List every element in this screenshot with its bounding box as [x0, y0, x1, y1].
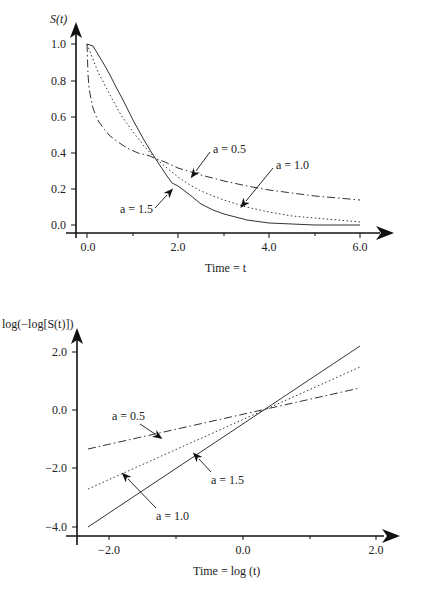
svg-text:a = 1.0: a = 1.0	[156, 509, 189, 523]
annotation-a-0.5: a = 0.5	[196, 142, 246, 171]
y-tick-label: 0.4	[51, 146, 66, 160]
x-tick-label: 4.0	[262, 240, 277, 254]
annotation-a-1.5: a = 1.5	[120, 195, 167, 216]
survival-chart: 0.0 0.2 0.4 0.6 0.8 1.0 S(t) 0.0 2.0 4.0	[50, 12, 394, 275]
y-tick-label: 0.8	[51, 74, 66, 88]
x-tick-label: 6.0	[353, 240, 368, 254]
bottom-x-axis: −2.0 0.0 2.0 Time = log (t)	[66, 529, 400, 578]
y-tick-label: 0.0	[51, 218, 66, 232]
series-a-1.0	[88, 367, 360, 489]
svg-text:a = 1.5: a = 1.5	[120, 202, 153, 216]
series-a-1.0	[87, 44, 360, 222]
y-tick-label: 1.0	[51, 37, 66, 51]
svg-text:a = 1.5: a = 1.5	[211, 473, 244, 487]
y-tick-label: 2.0	[52, 345, 67, 359]
x-tick-label: 2.0	[369, 543, 384, 557]
y-axis-title: S(t)	[50, 12, 67, 26]
svg-text:a = 0.5: a = 0.5	[112, 409, 145, 423]
top-y-axis: 0.0 0.2 0.4 0.6 0.8 1.0 S(t)	[50, 12, 82, 238]
x-tick-label: 0.0	[81, 240, 96, 254]
y-tick-label: −2.0	[45, 461, 67, 475]
x-tick-label: −2.0	[98, 543, 120, 557]
svg-text:a = 0.5: a = 0.5	[213, 142, 246, 156]
top-x-axis: 0.0 2.0 4.0 6.0 Time = t	[66, 226, 394, 275]
series-a-1.5	[87, 44, 360, 225]
annotation-a-0.5: a = 0.5	[112, 409, 155, 434]
svg-text:a = 1.0: a = 1.0	[276, 158, 309, 172]
series-a-1.5	[88, 346, 360, 527]
y-axis-title: log(−log[S(t)])	[2, 317, 73, 331]
series-a-0.5	[87, 44, 360, 200]
x-axis-arrow-icon	[382, 529, 400, 543]
annotation-a-1.0: a = 1.0	[128, 479, 189, 523]
y-tick-label: 0.6	[51, 110, 66, 124]
bottom-y-axis: 2.0 0.0 −2.0 −4.0 log(−log[S(t)])	[2, 317, 83, 545]
x-tick-label: 2.0	[171, 240, 186, 254]
annotation-a-1.5: a = 1.5	[199, 459, 244, 487]
log-log-chart: 2.0 0.0 −2.0 −4.0 log(−log[S(t)]) −2.0 0…	[2, 317, 400, 578]
x-tick-label: 0.0	[236, 543, 251, 557]
annotation-a-1.0: a = 1.0	[246, 158, 309, 201]
y-tick-label: 0.2	[51, 182, 66, 196]
y-tick-label: −4.0	[45, 520, 67, 534]
figure: 0.0 0.2 0.4 0.6 0.8 1.0 S(t) 0.0 2.0 4.0	[0, 0, 421, 596]
x-axis-title: Time = log (t)	[193, 564, 260, 578]
x-axis-title: Time = t	[205, 261, 247, 275]
y-tick-label: 0.0	[52, 403, 67, 417]
